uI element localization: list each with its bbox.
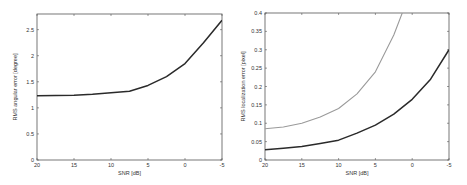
y-axis-label: RMS localization error [pixel] [240, 51, 246, 121]
x-tick-label: 0 [411, 162, 414, 168]
y-tick-label: 0.25 [251, 65, 262, 71]
y-axis-label: RMS angular error [degree] [12, 53, 18, 120]
x-tick-label: 5 [374, 162, 377, 168]
series-line [37, 20, 222, 96]
plot-angular-error: 20151050-500.511.522.5SNR [dB]RMS angula… [0, 0, 233, 185]
x-axis-label: SNR [dB] [118, 170, 141, 176]
y-tick-label: 2 [31, 53, 34, 59]
y-tick-label: 0 [259, 157, 262, 163]
plot-frame [37, 14, 222, 160]
y-tick-label: 0.35 [251, 28, 262, 34]
series-line [265, 50, 449, 150]
x-tick-label: 5 [146, 162, 149, 168]
series-line [265, 12, 403, 129]
y-tick-label: 1 [31, 105, 34, 111]
x-tick-label: 0 [183, 162, 186, 168]
y-tick-label: 0.1 [254, 120, 262, 126]
y-tick-label: 2.5 [26, 27, 34, 33]
chart-angular-error: 20151050-500.511.522.5SNR [dB]RMS angula… [0, 0, 233, 185]
y-tick-label: 1.5 [26, 79, 34, 85]
x-tick-label: 20 [34, 162, 40, 168]
y-tick-label: 0.3 [254, 47, 262, 53]
plot-localization-error: 20151050-500.050.10.150.20.250.30.350.4S… [233, 0, 467, 185]
x-tick-label: 15 [71, 162, 77, 168]
y-tick-label: 0.15 [251, 102, 262, 108]
x-axis-label: SNR [dB] [346, 170, 369, 176]
x-tick-label: 10 [336, 162, 342, 168]
chart-localization-error: 20151050-500.050.10.150.20.250.30.350.4S… [233, 0, 467, 185]
y-tick-label: 0.4 [254, 10, 262, 16]
x-tick-label: 15 [299, 162, 305, 168]
x-tick-label: 10 [108, 162, 114, 168]
y-tick-label: 0.5 [26, 131, 34, 137]
plot-frame [265, 13, 449, 160]
y-tick-label: 0.05 [251, 139, 262, 145]
y-tick-label: 0.2 [254, 84, 262, 90]
x-tick-label: -5 [447, 162, 452, 168]
x-tick-label: 20 [262, 162, 268, 168]
y-tick-label: 0 [31, 157, 34, 163]
x-tick-label: -5 [220, 162, 225, 168]
